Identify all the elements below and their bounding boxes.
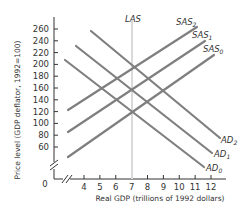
y-tick-label: 220 xyxy=(33,48,49,58)
x-tick-label: 9 xyxy=(161,182,166,192)
ad-as-chart: Price level (GDP deflator, 1992=100) 608… xyxy=(0,0,252,211)
x-tick-label: 10 xyxy=(174,182,185,192)
x-tick-label: 12 xyxy=(206,182,217,192)
y-tick-label: 100 xyxy=(33,118,49,128)
las-label: LAS xyxy=(125,14,142,24)
y-tick-label: 240 xyxy=(33,36,49,46)
x-tick-label: 11 xyxy=(190,182,201,192)
sas0-curve xyxy=(68,55,214,157)
x-tick-label: 6 xyxy=(113,182,118,192)
y-tick-label: 80 xyxy=(38,130,49,140)
y-tick-label: 160 xyxy=(33,83,49,93)
y-tick-label: 140 xyxy=(33,95,49,105)
sas0-label: SAS0 xyxy=(203,44,224,55)
ad0-label: AD0 xyxy=(205,163,222,174)
x-tick-label: 4 xyxy=(81,182,86,192)
y-axis-title: Price level (GDP deflator, 1992=100) xyxy=(13,40,22,179)
ad2-label: AD2 xyxy=(220,135,237,146)
x-tick-label: 8 xyxy=(145,182,150,192)
sas2-label: SAS2 xyxy=(176,17,197,28)
x-tick-label: 7 xyxy=(129,182,134,192)
y-tick-label: 260 xyxy=(33,24,49,34)
y-tick-label: 60 xyxy=(38,142,49,152)
y-tick-label: 120 xyxy=(33,107,49,117)
ad-curves xyxy=(65,31,220,167)
x-ticks: 456789101112 xyxy=(81,175,216,192)
x-tick-label: 5 xyxy=(97,182,102,192)
y-tick-label: 200 xyxy=(33,59,49,69)
sas1-label: SAS1 xyxy=(192,30,212,41)
ad1-label: AD1 xyxy=(213,149,230,160)
ad2-curve xyxy=(91,31,220,138)
x-axis-title: Real GDP (trillions of 1992 dollars) xyxy=(95,194,224,203)
y-tick-label: 180 xyxy=(33,71,49,81)
origin-label: 0 xyxy=(42,179,47,189)
